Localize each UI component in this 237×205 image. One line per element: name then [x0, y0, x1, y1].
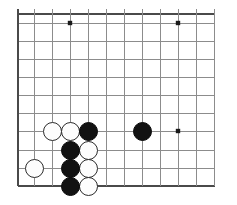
black-stone-2[interactable]	[133, 122, 152, 141]
white-stone-4[interactable]	[25, 159, 44, 178]
go-board-diagram	[0, 0, 237, 205]
black-stone-4[interactable]	[61, 159, 80, 178]
board-surface[interactable]	[0, 0, 237, 205]
white-stone-5[interactable]	[79, 159, 98, 178]
star-point-icon	[176, 21, 180, 25]
white-stone-3[interactable]	[79, 141, 98, 160]
star-point-icon	[68, 21, 72, 25]
white-stone-1[interactable]	[43, 122, 62, 141]
black-stone-1[interactable]	[79, 122, 98, 141]
white-stone-2[interactable]	[61, 122, 80, 141]
star-point-icon	[176, 129, 180, 133]
black-stone-3[interactable]	[61, 141, 80, 160]
white-stone-6[interactable]	[79, 177, 98, 196]
black-stone-5[interactable]	[61, 177, 80, 196]
